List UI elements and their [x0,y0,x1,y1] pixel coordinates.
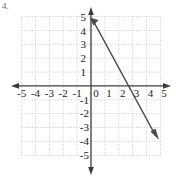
y-tick-label: 2 [81,52,87,64]
x-tick-label: 1 [106,87,112,99]
x-axis-tick-labels: -5 -4 -3 -2 -1 0 1 2 3 4 5 [17,87,167,99]
y-tick-label: -5 [80,149,90,161]
x-tick-label: -5 [17,87,27,99]
x-tick-label: -4 [31,87,41,99]
origin-label: 0 [93,87,99,99]
x-tick-label: -2 [59,87,68,99]
x-tick-label: 5 [161,87,167,99]
y-tick-label: 3 [81,38,87,50]
coordinate-plane-graph: -5 -4 -3 -2 -1 0 1 2 3 4 5 5 4 3 2 1 -1 … [0,0,176,178]
x-tick-label: -3 [45,87,55,99]
x-tick-label: 2 [120,87,126,99]
y-tick-label: 4 [81,25,87,37]
plotted-line-series-1 [90,18,160,141]
y-tick-label: 5 [81,11,87,23]
x-tick-label: 4 [148,87,154,99]
y-axis-negative-arrow-icon [88,167,94,175]
y-tick-label: -3 [80,121,90,133]
graph-figure: 4. [0,0,176,178]
x-tick-label: 3 [134,87,140,99]
y-tick-label: -1 [80,94,89,106]
y-tick-label: -4 [80,135,90,147]
line-end-arrow-icon [151,129,160,141]
y-axis-positive-arrow-icon [88,7,94,15]
y-tick-label: -2 [80,107,89,119]
y-tick-label: 1 [81,66,87,78]
